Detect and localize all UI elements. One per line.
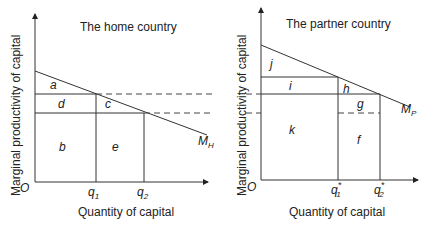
capital-mobility-diagram: The home country Marginal productivity o… (0, 0, 424, 226)
home-q2-label: q2 (137, 185, 149, 201)
partner-country-chart: The partner country Marginal productivit… (235, 8, 418, 219)
home-country-chart: The home country Marginal productivity o… (9, 14, 214, 219)
partner-area-j: j (268, 57, 273, 71)
home-area-a: a (50, 78, 57, 92)
partner-area-f: f (357, 133, 362, 147)
partner-title: The partner country (286, 17, 391, 31)
partner-x-label: Quantity of capital (289, 205, 385, 219)
home-origin-label: O (20, 181, 29, 195)
partner-area-h: h (343, 82, 350, 96)
home-q1-label: q1 (88, 185, 99, 201)
home-x-label: Quantity of capital (78, 205, 174, 219)
partner-area-i: i (289, 79, 292, 93)
partner-area-g: g (357, 97, 364, 111)
partner-mp-curve (261, 45, 410, 107)
partner-y-label: Marginal productivity of capital (235, 35, 249, 196)
home-area-b: b (59, 140, 66, 154)
partner-curve-label: MP (401, 102, 417, 118)
home-y-label: Marginal productivity of capital (9, 35, 23, 196)
partner-q2-label: q*2 (374, 180, 385, 199)
home-area-e: e (112, 140, 119, 154)
home-area-c: c (105, 97, 111, 111)
partner-q1-label: q*1 (331, 180, 342, 199)
home-title: The home country (80, 20, 177, 34)
home-curve-label: MH (198, 134, 214, 150)
partner-area-k: k (289, 123, 296, 137)
home-area-d: d (58, 97, 65, 111)
partner-origin-label: O (247, 180, 256, 194)
